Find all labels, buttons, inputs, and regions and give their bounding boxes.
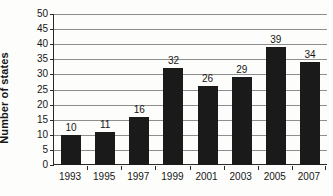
bar[interactable]	[163, 68, 183, 165]
x-axis-tick-label: 2005	[264, 172, 286, 182]
bar-group: 10	[54, 14, 88, 165]
y-axis-tick-label: 0	[24, 160, 48, 170]
x-axis-tick-label: 1999	[161, 172, 183, 182]
bar-value-label: 29	[236, 65, 247, 75]
y-axis-tick-label: 10	[24, 130, 48, 140]
bar[interactable]	[266, 47, 286, 165]
bars-layer: 1011163226293934	[54, 14, 327, 165]
x-axis-tick-mark	[87, 166, 88, 170]
bar-group: 29	[225, 14, 259, 165]
x-axis-tick-label: 1997	[127, 172, 149, 182]
y-axis-tick-label: 5	[24, 145, 48, 155]
x-axis-tick-mark	[224, 166, 225, 170]
x-axis-tick-label: 2007	[298, 172, 320, 182]
x-axis-tick-mark	[121, 166, 122, 170]
x-axis-tick-mark	[190, 166, 191, 170]
y-axis-tick-labels: 05101520253035404550	[24, 0, 48, 196]
x-axis-tick-label: 1993	[59, 172, 81, 182]
x-axis: 19931995199719992001200320052007	[53, 166, 326, 196]
x-axis-tick-label: 2003	[230, 172, 252, 182]
x-axis-tick-mark	[258, 166, 259, 170]
bar-group: 32	[156, 14, 190, 165]
y-axis-tick-label: 35	[24, 54, 48, 64]
x-axis-tick-mark	[155, 166, 156, 170]
y-axis-tick-label: 45	[24, 24, 48, 34]
x-axis-tick-mark	[292, 166, 293, 170]
bar[interactable]	[198, 86, 218, 165]
bar-value-label: 26	[202, 74, 213, 84]
bar[interactable]	[61, 135, 81, 165]
y-axis-tick-label: 40	[24, 39, 48, 49]
bar-group: 34	[293, 14, 327, 165]
bar-group: 16	[122, 14, 156, 165]
bar[interactable]	[95, 132, 115, 165]
x-axis-tick-mark	[325, 166, 326, 170]
x-axis-tick-label: 2001	[195, 172, 217, 182]
bar[interactable]	[232, 77, 252, 165]
y-axis-tick-label: 50	[24, 9, 48, 19]
bar-value-label: 11	[100, 120, 110, 130]
bar-value-label: 34	[304, 50, 315, 60]
y-axis-tick-label: 25	[24, 85, 48, 95]
bar-value-label: 32	[168, 56, 179, 66]
bar-value-label: 39	[270, 35, 281, 45]
bar-value-label: 10	[66, 123, 77, 133]
bar-group: 11	[88, 14, 122, 165]
y-axis-tick-label: 20	[24, 100, 48, 110]
bar-value-label: 16	[134, 105, 145, 115]
bar[interactable]	[300, 62, 320, 165]
x-axis-tick-label: 1995	[93, 172, 115, 182]
y-axis-tick-label: 15	[24, 115, 48, 125]
bar-group: 26	[191, 14, 225, 165]
bar-group: 39	[259, 14, 293, 165]
plot-area: 1011163226293934	[53, 14, 327, 165]
y-axis-title: Number of states	[0, 0, 22, 196]
y-axis-tick-label: 30	[24, 69, 48, 79]
bar-chart: Number of states 05101520253035404550 10…	[0, 0, 333, 196]
bar[interactable]	[129, 117, 149, 165]
